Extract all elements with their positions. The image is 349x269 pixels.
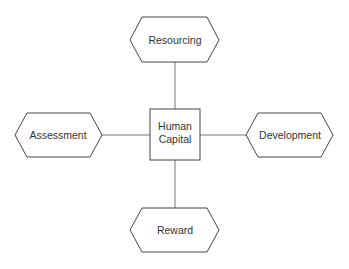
node-assessment: Assessment [15,113,102,157]
node-label-resourcing: Resourcing [148,34,201,46]
node-label-development: Development [259,129,321,141]
center-label-line2: Capital [159,133,192,145]
node-label-assessment: Assessment [29,129,86,141]
human-capital-diagram: Human Capital Resourcing Assessment Deve… [0,0,349,269]
node-label-reward: Reward [157,224,193,236]
center-label-line1: Human [158,120,192,132]
center-node-human-capital: Human Capital [150,109,200,160]
node-reward: Reward [130,208,219,252]
node-development: Development [246,113,333,157]
node-resourcing: Resourcing [130,17,219,62]
